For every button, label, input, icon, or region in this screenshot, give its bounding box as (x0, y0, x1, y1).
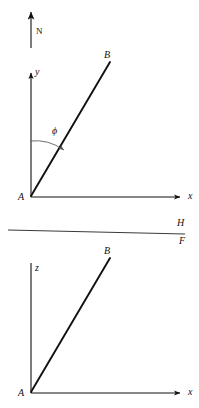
top-view-x-axis-label: x (188, 191, 192, 201)
fold-line-lower-label: F (179, 236, 185, 246)
front-view-point-a-label: A (18, 388, 24, 398)
fold-line-hf (8, 230, 185, 234)
front-view-point-b-label: B (104, 246, 110, 256)
front-view-group (31, 258, 180, 393)
top-view-point-a-label: A (18, 192, 24, 202)
north-label: N (36, 27, 43, 36)
top-view-y-axis-label: y (35, 67, 39, 77)
front-view-line-ab (31, 258, 110, 392)
figure-root: N y B ϕ A x H F z B A x (0, 0, 199, 408)
top-view-line-ab (31, 62, 110, 196)
top-view-point-b-label: B (104, 50, 110, 60)
front-view-z-axis-label: z (35, 263, 39, 273)
front-view-x-axis-label: x (188, 387, 192, 397)
phi-angle-label: ϕ (52, 126, 57, 136)
fold-line-group (8, 230, 185, 234)
fold-line-upper-label: H (177, 218, 184, 228)
figure-drawing (0, 0, 199, 408)
